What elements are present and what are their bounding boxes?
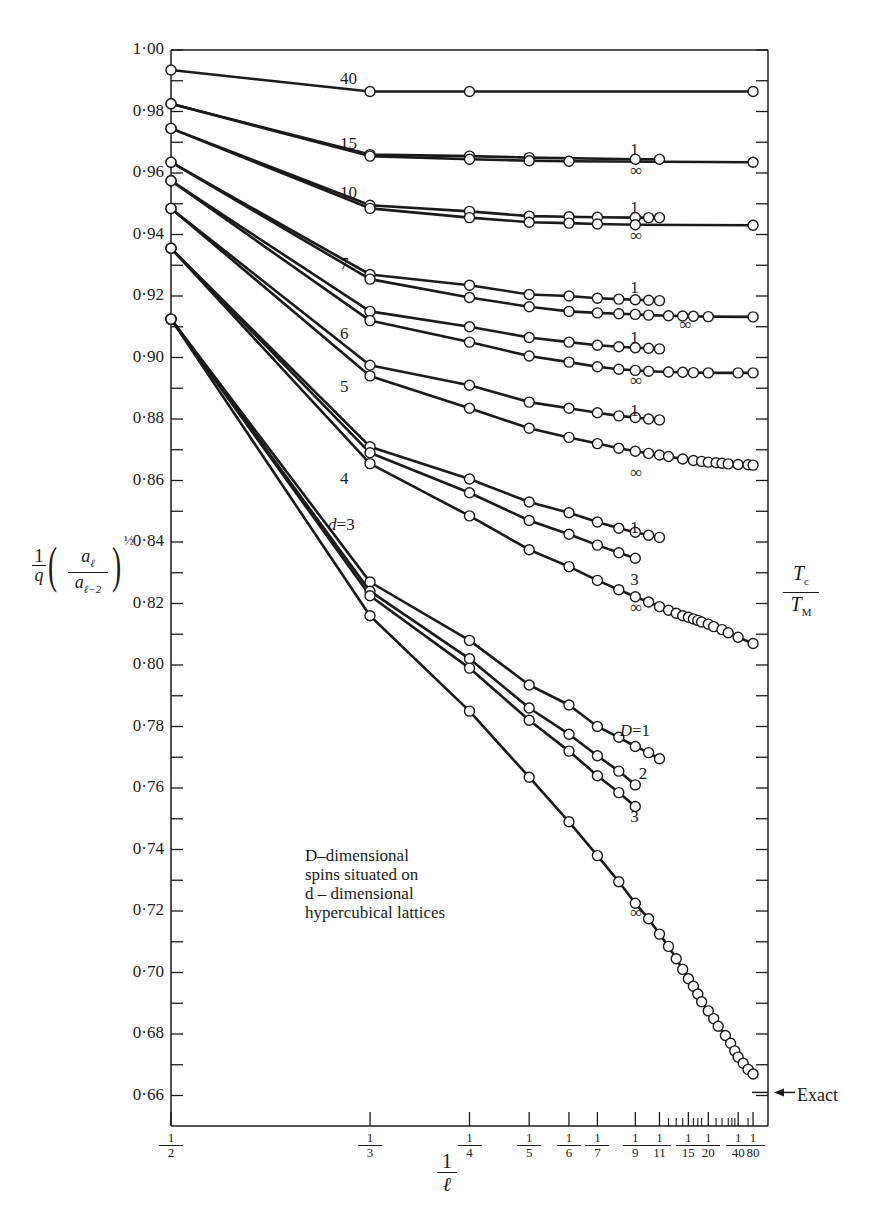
data-point-marker — [592, 575, 602, 585]
data-point-marker — [592, 219, 602, 229]
data-point-marker — [524, 545, 534, 555]
annotation-line-3: d – dimensional — [305, 884, 445, 903]
data-point-marker — [166, 314, 176, 324]
data-point-marker — [166, 203, 176, 213]
data-point-marker — [524, 217, 534, 227]
data-point-marker — [655, 450, 665, 460]
x-axis-label: 1 ℓ — [437, 1150, 457, 1195]
data-point-marker — [365, 306, 375, 316]
data-point-marker — [524, 302, 534, 312]
data-point-marker — [614, 443, 624, 453]
data-point-marker — [644, 448, 654, 458]
y-tick-label: 0·80 — [104, 654, 164, 674]
right-den: T — [791, 593, 802, 615]
y-tick-label: 0·98 — [104, 101, 164, 121]
data-point-marker — [592, 517, 602, 527]
data-point-marker — [524, 290, 534, 300]
data-point-marker — [592, 751, 602, 761]
data-point-marker — [614, 585, 624, 595]
data-point-marker — [166, 99, 176, 109]
data-point-marker — [723, 628, 733, 638]
data-point-marker — [614, 342, 624, 352]
data-point-marker — [671, 954, 681, 964]
series-label: 1 — [630, 401, 639, 421]
data-point-marker — [664, 452, 674, 462]
data-point-marker — [614, 766, 624, 776]
series-label: 2 — [639, 764, 648, 784]
series-label: 1 — [630, 198, 639, 218]
data-point-marker — [465, 322, 475, 332]
data-point-marker — [592, 308, 602, 318]
data-point-marker — [592, 851, 602, 861]
data-point-marker — [465, 280, 475, 290]
series-line — [171, 70, 753, 92]
y-tick-label: 0·72 — [104, 900, 164, 920]
data-point-marker — [748, 87, 758, 97]
data-point-marker — [564, 218, 574, 228]
data-point-marker — [655, 344, 665, 354]
data-point-marker — [592, 722, 602, 732]
data-point-marker — [465, 635, 475, 645]
data-point-marker — [630, 309, 640, 319]
series-label: ∞ — [630, 463, 642, 483]
data-point-marker — [524, 680, 534, 690]
data-point-marker — [748, 639, 758, 649]
data-point-marker — [678, 964, 688, 974]
x-tick-label: 111 — [647, 1132, 671, 1159]
data-point-marker — [524, 497, 534, 507]
data-point-marker — [733, 632, 743, 642]
exact-label: Exact — [797, 1085, 838, 1106]
ylabel-den: a — [75, 572, 84, 592]
right-den-sub: M — [802, 606, 812, 618]
data-point-marker — [614, 294, 624, 304]
ylabel-exponent: ½ — [124, 533, 134, 549]
data-point-marker — [592, 439, 602, 449]
data-point-marker — [365, 274, 375, 284]
data-point-marker — [655, 754, 665, 764]
xaxis-den: ℓ — [437, 1173, 457, 1195]
data-point-marker — [465, 337, 475, 347]
ylabel-q: q — [32, 566, 46, 584]
data-point-marker — [592, 340, 602, 350]
x-tick-label: 180 — [741, 1132, 765, 1159]
data-point-marker — [465, 706, 475, 716]
data-point-marker — [365, 591, 375, 601]
group-label: 15 — [340, 134, 357, 154]
ylabel-num: a — [81, 546, 90, 566]
series-label: 1 — [630, 518, 639, 538]
annotation-line-2: spins situated on — [305, 865, 445, 884]
data-point-marker — [465, 213, 475, 223]
data-point-marker — [465, 654, 475, 664]
data-point-marker — [614, 309, 624, 319]
data-point-marker — [524, 772, 534, 782]
data-point-marker — [688, 368, 698, 378]
data-point-marker — [524, 703, 534, 713]
data-point-marker — [365, 371, 375, 381]
data-point-marker — [564, 562, 574, 572]
data-point-marker — [644, 295, 654, 305]
data-point-marker — [644, 748, 654, 758]
data-point-marker — [748, 460, 758, 470]
data-point-marker — [365, 459, 375, 469]
data-point-marker — [748, 220, 758, 230]
xaxis-num: 1 — [437, 1150, 457, 1173]
y-tick-label: 0·88 — [104, 408, 164, 428]
data-point-marker — [365, 611, 375, 621]
data-point-marker — [614, 523, 624, 533]
data-point-marker — [614, 364, 624, 374]
right-num: T — [793, 562, 804, 584]
data-point-marker — [723, 459, 733, 469]
data-point-marker — [592, 771, 602, 781]
series-line — [171, 248, 753, 643]
data-point-marker — [365, 360, 375, 370]
x-tick-label: 120 — [696, 1132, 720, 1159]
data-point-marker — [524, 351, 534, 361]
series-label: ∞ — [630, 161, 642, 181]
group-label: 4 — [340, 469, 349, 489]
data-point-marker — [524, 516, 534, 526]
data-point-marker — [703, 312, 713, 322]
annotation-line-1: D–dimensional — [305, 846, 445, 865]
data-point-marker — [655, 929, 665, 939]
data-point-marker — [664, 311, 674, 321]
data-point-marker — [564, 508, 574, 518]
